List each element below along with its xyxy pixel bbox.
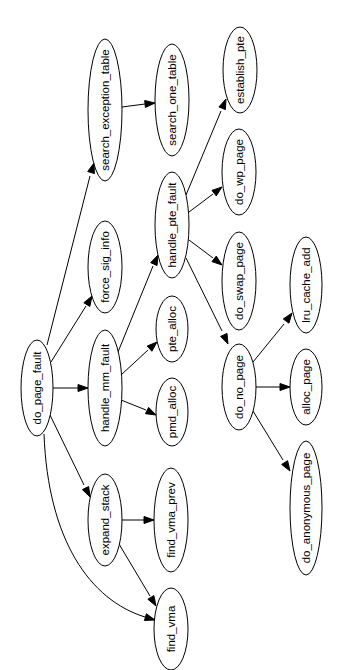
node-do_no_page: do_no_page [222, 344, 256, 430]
edge-line [186, 111, 221, 195]
edge-do_no_page-to-do_anonymous_page [253, 411, 290, 471]
edge-line [50, 415, 84, 485]
node-alloc_page: alloc_page [290, 349, 322, 425]
arrowhead-icon [212, 187, 222, 196]
node-lru_cache_add: lru_cache_add [290, 237, 322, 333]
node-label: expand_stack [99, 484, 111, 555]
node-search_exception_table: search_exception_table [88, 39, 122, 181]
edge-do_no_page-to-alloc_page [256, 384, 290, 391]
edge-line [189, 194, 213, 212]
edge-line [118, 266, 153, 352]
node-label: pmd_alloc [166, 386, 178, 439]
edge-line [119, 544, 150, 596]
arrowhead-icon [144, 614, 155, 621]
node-pte_alloc: pte_alloc [156, 296, 188, 362]
arrowhead-icon [78, 385, 88, 392]
edge-handle_pte_fault-to-establish_pte [186, 99, 226, 195]
arrowhead-icon [219, 99, 226, 110]
node-find_vma: find_vma [154, 588, 188, 670]
arrowhead-icon [84, 296, 92, 306]
arrowhead-icon [283, 313, 292, 323]
arrowhead-icon [145, 101, 155, 108]
node-do_wp_page: do_wp_page [222, 129, 256, 215]
node-label: handle_pte_fault [166, 182, 178, 268]
edge-line [51, 306, 86, 362]
arrowhead-icon [148, 596, 156, 606]
edge-line [253, 324, 284, 362]
edge-do_no_page-to-lru_cache_add [253, 313, 292, 362]
node-expand_stack: expand_stack [88, 474, 122, 566]
node-handle_pte_fault: handle_pte_fault [155, 172, 189, 278]
arrowhead-icon [147, 342, 157, 351]
edge-handle_pte_fault-to-do_wp_page [189, 187, 222, 212]
node-label: do_no_page [233, 355, 245, 419]
call-graph-diagram: do_page_faultsearch_exception_tableforce… [0, 0, 343, 670]
edge-line [47, 176, 90, 345]
node-do_page_fault: do_page_fault [21, 340, 53, 436]
edge-expand_stack-to-find_vma [119, 544, 156, 606]
edge-handle_pte_fault-to-do_no_page [186, 258, 228, 344]
edge-line [121, 400, 146, 410]
edge-search_exception_table-to-search_one_table [122, 101, 155, 108]
node-find_vma_prev: find_vma_prev [154, 468, 188, 572]
edge-do_page_fault-to-search_exception_table [47, 163, 94, 345]
arrowhead-icon [221, 333, 228, 344]
edge-do_page_fault-to-handle_mm_fault [53, 385, 88, 392]
node-label: search_one_table [166, 54, 178, 145]
arrowhead-icon [88, 163, 95, 174]
edge-line [189, 240, 213, 258]
node-handle_mm_fault: handle_mm_fault [88, 330, 122, 446]
edge-handle_mm_fault-to-pmd_alloc [121, 400, 156, 415]
arrowhead-icon [144, 517, 154, 524]
arrowhead-icon [212, 256, 222, 265]
node-label: alloc_page [300, 359, 312, 415]
nodes-layer: do_page_faultsearch_exception_tableforce… [21, 27, 322, 670]
edge-handle_pte_fault-to-do_swap_page [189, 240, 222, 265]
node-label: lru_cache_add [300, 247, 312, 322]
arrowhead-icon [282, 461, 290, 471]
node-do_swap_page: do_swap_page [222, 232, 256, 330]
node-label: handle_mm_fault [99, 343, 111, 432]
edge-line [253, 411, 283, 460]
node-label: do_page_fault [31, 351, 43, 425]
arrowhead-icon [151, 255, 158, 266]
node-search_one_table: search_one_table [155, 44, 189, 156]
node-label: pte_alloc [166, 306, 178, 352]
edge-line [121, 350, 148, 375]
node-pmd_alloc: pmd_alloc [156, 378, 188, 446]
arrowhead-icon [280, 384, 290, 391]
node-label: force_sig_info [99, 231, 111, 303]
edge-expand_stack-to-find_vma_prev [122, 517, 154, 524]
node-label: do_swap_page [233, 242, 245, 320]
node-establish_pte: establish_pte [223, 27, 257, 113]
node-label: find_vma [165, 605, 177, 652]
edge-do_page_fault-to-expand_stack [50, 415, 90, 497]
node-do_anonymous_page: do_anonymous_page [290, 441, 322, 575]
edge-line [122, 104, 145, 107]
node-label: search_exception_table [99, 49, 111, 170]
node-label: find_vma_prev [165, 482, 177, 558]
edge-handle_mm_fault-to-pte_alloc [121, 342, 157, 375]
node-force_sig_info: force_sig_info [88, 221, 122, 313]
arrowhead-icon [82, 486, 90, 497]
edge-line [186, 258, 222, 331]
node-label: establish_pte [234, 36, 246, 104]
edge-handle_mm_fault-to-handle_pte_fault [118, 255, 158, 352]
arrowhead-icon [145, 407, 156, 415]
node-label: do_anonymous_page [300, 453, 312, 564]
node-label: do_wp_page [233, 139, 245, 205]
